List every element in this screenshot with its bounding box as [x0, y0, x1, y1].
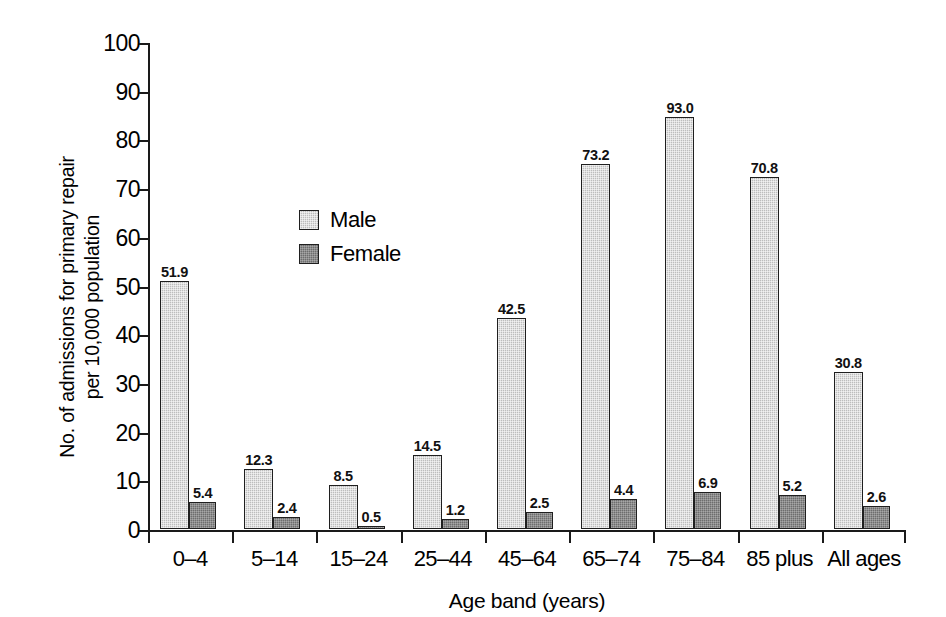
x-axis-tick-mark	[485, 532, 487, 543]
bar-value-label: 42.5	[490, 302, 534, 317]
y-axis-tick-mark	[139, 92, 149, 94]
y-axis-tick-mark	[139, 433, 149, 435]
legend-item-male: Male	[299, 203, 479, 237]
y-axis-tick-label: 90	[80, 81, 140, 104]
y-axis-tick-label: 50	[80, 276, 140, 299]
y-axis-tick-label: 0	[80, 519, 140, 542]
bar-male	[665, 117, 694, 529]
x-axis-category-label: 15–24	[310, 547, 406, 571]
x-axis-tick-mark	[738, 532, 740, 543]
bar-value-label: 8.5	[321, 469, 365, 484]
bar-value-label: 4.4	[602, 483, 646, 498]
bar-chart: No. of admissions for primary repair per…	[0, 0, 946, 617]
x-axis-title: Age band (years)	[148, 589, 906, 613]
bar-value-label: 5.4	[181, 486, 225, 501]
x-axis-tick-mark	[148, 532, 150, 543]
bar-value-label: 0.5	[349, 510, 393, 525]
y-axis-tick-mark	[139, 238, 149, 240]
x-axis-category-label: 0–4	[142, 547, 238, 571]
y-axis-tick-label: 80	[80, 129, 140, 152]
bar-female	[273, 517, 300, 529]
x-axis-tick-mark	[653, 532, 655, 543]
bar-female	[779, 495, 806, 529]
bar-female	[694, 492, 721, 529]
bar-value-label: 93.0	[658, 101, 702, 116]
y-axis-tick-mark	[139, 384, 149, 386]
x-axis-tick-mark	[401, 532, 403, 543]
y-axis-title-line-1: No. of admissions for primary repair	[55, 72, 80, 542]
x-axis-category-label: 45–64	[479, 547, 575, 571]
y-axis-tick-label: 70	[80, 178, 140, 201]
bar-value-label: 2.4	[265, 501, 309, 516]
x-axis-category-label: All ages	[816, 547, 912, 571]
bar-value-label: 2.6	[854, 490, 898, 505]
y-axis-tick-label: 20	[80, 422, 140, 445]
y-axis-tick-label: 10	[80, 470, 140, 493]
x-axis-tick-mark	[904, 532, 906, 543]
y-axis-tick-label: 40	[80, 324, 140, 347]
bar-male	[834, 372, 863, 529]
x-axis-category-label: 25–44	[395, 547, 491, 571]
bar-male	[244, 469, 273, 529]
x-axis-tick-mark	[316, 532, 318, 543]
bar-female	[610, 499, 637, 529]
bar-male	[750, 177, 779, 529]
bar-value-label: 70.8	[742, 161, 786, 176]
y-axis-tick-label: 60	[80, 227, 140, 250]
bar-value-label: 14.5	[405, 439, 449, 454]
bar-value-label: 12.3	[237, 453, 281, 468]
x-axis-line	[148, 530, 906, 532]
x-axis-category-label: 65–74	[563, 547, 659, 571]
bar-value-label: 1.2	[433, 503, 477, 518]
bar-female	[863, 506, 890, 529]
bar-value-label: 2.5	[518, 496, 562, 511]
y-axis-tick-mark	[139, 140, 149, 142]
x-axis-tick-mark	[822, 532, 824, 543]
bar-female	[358, 526, 385, 529]
x-axis-category-label: 85 plus	[732, 547, 828, 571]
bar-female	[189, 502, 216, 529]
bar-value-label: 30.8	[826, 356, 870, 371]
x-axis-category-label: 5–14	[226, 547, 322, 571]
bar-value-label: 5.2	[770, 479, 814, 494]
legend-swatch-male-icon	[299, 210, 319, 230]
plot-area: 51.95.412.32.48.50.514.51.242.52.573.24.…	[148, 43, 906, 531]
legend-swatch-female-icon	[299, 244, 319, 264]
x-axis-tick-mark	[569, 532, 571, 543]
y-axis-tick-label: 100	[80, 32, 140, 55]
x-axis-category-label: 75–84	[647, 547, 743, 571]
y-axis-tick-mark	[139, 287, 149, 289]
y-axis-tick-mark	[139, 481, 149, 483]
bar-value-label: 73.2	[574, 148, 618, 163]
x-axis-tick-mark	[232, 532, 234, 543]
y-axis-tick-mark	[139, 43, 149, 45]
legend-label-male: Male	[330, 209, 376, 231]
bar-female	[442, 519, 469, 529]
bar-female	[526, 512, 553, 529]
bar-male	[581, 164, 610, 529]
legend-label-female: Female	[330, 243, 401, 265]
y-axis-tick-mark	[139, 189, 149, 191]
y-axis-tick-label: 30	[80, 373, 140, 396]
bar-value-label: 51.9	[153, 265, 197, 280]
y-axis-tick-mark	[139, 335, 149, 337]
bar-value-label: 6.9	[686, 476, 730, 491]
legend-item-female: Female	[299, 237, 479, 271]
legend: Male Female	[299, 203, 479, 271]
y-axis-tick-labels: 0102030405060708090100	[78, 0, 140, 617]
